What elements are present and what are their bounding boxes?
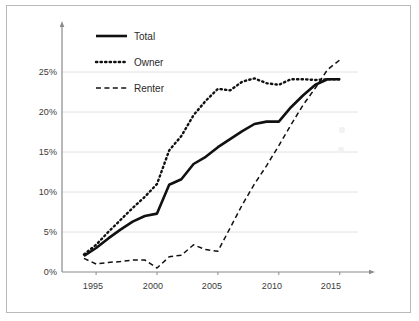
legend-label-owner: Owner xyxy=(134,57,163,68)
x-tick-label-2010: 2010 xyxy=(252,281,292,291)
y-tick-label-0: 0% xyxy=(23,267,57,277)
y-tick-label-5: 5% xyxy=(23,227,57,237)
y-tick-label-10: 10% xyxy=(23,187,57,197)
scan-artifact xyxy=(338,147,344,153)
scan-artifact xyxy=(339,127,345,133)
x-tick-label-2005: 2005 xyxy=(192,281,232,291)
legend-glyphs xyxy=(96,36,127,88)
x-axis-arrow xyxy=(369,270,375,275)
y-axis-arrow xyxy=(60,21,65,27)
y-tick-label-15: 15% xyxy=(23,147,57,157)
chart-page: 25% 20% 15% 10% 5% 0% 1995 2000 2005 201… xyxy=(0,0,419,321)
y-tick-label-25: 25% xyxy=(23,67,57,77)
x-tick-label-2000: 2000 xyxy=(133,281,173,291)
series-lines xyxy=(84,60,340,268)
x-tick-label-1995: 1995 xyxy=(73,281,113,291)
y-tick-label-20: 20% xyxy=(23,107,57,117)
line-chart-plot xyxy=(0,0,419,321)
series-line-total xyxy=(84,79,340,256)
legend-label-renter: Renter xyxy=(134,83,164,94)
series-line-renter xyxy=(84,60,340,268)
x-tick-label-2015: 2015 xyxy=(311,281,351,291)
legend-label-total: Total xyxy=(134,31,155,42)
